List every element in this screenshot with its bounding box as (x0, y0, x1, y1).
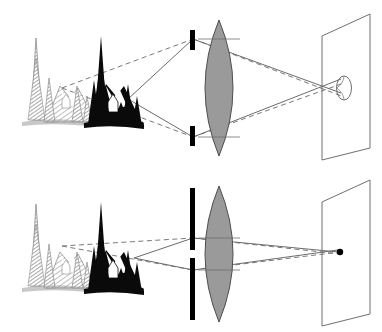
aperture-stop-narrow[interactable] (190, 188, 195, 320)
narrow-aperture-scene (0, 166, 382, 332)
near-scene-object-bottom (84, 202, 144, 295)
converging-lens-top (205, 20, 233, 156)
panel-wide-aperture (0, 0, 382, 166)
far-scene-object-top (22, 38, 96, 127)
focus-point-bottom (337, 249, 343, 255)
near-scene-object-top (84, 36, 144, 129)
panel-narrow-aperture (0, 166, 382, 332)
converging-lens-bottom (205, 186, 233, 322)
wide-aperture-scene (0, 0, 382, 166)
blur-circle-top (337, 76, 352, 100)
aperture-stop-wide[interactable] (190, 30, 195, 146)
optics-diagram (0, 0, 382, 332)
far-scene-object-bottom (22, 204, 96, 293)
image-plane-screen-top (322, 14, 370, 160)
